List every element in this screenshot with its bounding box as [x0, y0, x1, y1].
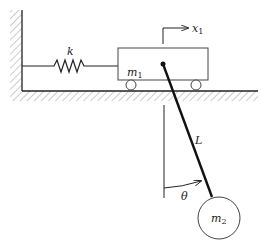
- cart-mass-label: m1: [127, 66, 143, 80]
- angle-label: θ: [181, 190, 188, 203]
- displacement-label: x1: [192, 22, 203, 36]
- spring-label: k: [67, 45, 74, 58]
- angle-arc: [164, 181, 201, 188]
- wheel-left: [126, 80, 136, 90]
- length-label: L: [194, 134, 202, 147]
- mechanical-diagram: k m1 x1 L θ m2: [0, 0, 266, 247]
- pendulum-rod: [163, 64, 212, 197]
- displacement-arrow: [163, 28, 188, 44]
- wall-hatch: [10, 10, 22, 91]
- spring: [22, 60, 118, 72]
- ground-hatch: [10, 91, 258, 101]
- wheel-right: [191, 80, 201, 90]
